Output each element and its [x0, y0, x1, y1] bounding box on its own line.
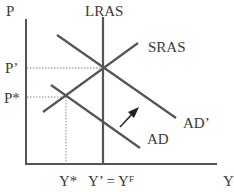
ad-prime-label: AD’ [183, 116, 210, 131]
y-star-label: Y* [59, 174, 77, 189]
sras-curve [43, 43, 138, 112]
lras-label: LRAS [85, 4, 123, 19]
shift-right-arrow-icon [120, 107, 139, 127]
ad-as-diagram [0, 0, 234, 192]
ad-curve [51, 85, 140, 148]
p-star-label: P* [4, 91, 20, 106]
p-prime-label: P’ [5, 61, 18, 76]
ad-label: AD [147, 132, 169, 147]
sras-label: SRAS [148, 40, 186, 55]
x-axis-label: Y [223, 174, 234, 189]
y-axis-label: P [6, 4, 14, 19]
y-prime-label: Y’ = YF [88, 174, 134, 189]
